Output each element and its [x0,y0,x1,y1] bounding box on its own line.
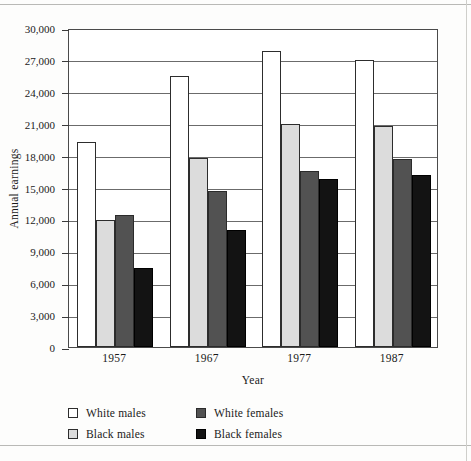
legend-swatch-white-females [196,408,206,418]
bar-black-females-1977[interactable] [319,179,338,347]
legend-swatch-black-males [68,429,78,439]
bar-black-females-1967[interactable] [227,230,246,347]
legend-label-black-males: Black males [86,428,145,440]
bar-white-males-1957[interactable] [77,142,96,347]
legend-swatch-white-males [68,408,78,418]
y-axis-tick-label: 24,000 [25,87,55,99]
bar-black-males-1957[interactable] [96,220,115,347]
bar-white-females-1977[interactable] [300,171,319,348]
bar-black-males-1977[interactable] [281,124,300,347]
bar-group-1957 [77,30,153,347]
legend-label-white-females: White females [214,407,283,419]
x-axis-tick-label-1967: 1967 [195,352,219,364]
y-axis-tick-label: 18,000 [25,151,55,163]
legend-item-black-males[interactable]: Black males [68,428,196,440]
x-axis-tick-labels: 1957196719771987 [68,352,438,372]
bar-white-males-1977[interactable] [262,51,281,347]
x-axis-tick-label-1957: 1957 [102,352,126,364]
y-axis-tick [62,189,69,190]
legend-item-white-females[interactable]: White females [196,407,356,419]
y-axis-tick [62,221,69,222]
y-axis-tick [62,157,69,158]
bar-black-males-1987[interactable] [374,126,393,347]
legend-label-black-females: Black females [214,428,282,440]
y-axis-tick-label: 30,000 [25,23,55,35]
y-axis-tick-label: 9,000 [30,246,55,258]
y-axis-tick [62,61,69,62]
y-axis-tick-label: 21,000 [25,119,55,131]
legend-swatch-black-females [196,429,206,439]
y-axis-tick [62,125,69,126]
bar-white-males-1967[interactable] [170,76,189,347]
bar-black-males-1967[interactable] [189,158,208,347]
legend-item-black-females[interactable]: Black females [196,428,356,440]
bar-white-females-1967[interactable] [208,191,227,347]
y-axis-tick-label: 3,000 [30,310,55,322]
legend-label-white-males: White males [86,407,146,419]
chart-legend: White malesWhite femalesBlack malesBlack… [68,402,368,444]
bar-white-females-1957[interactable] [115,215,134,347]
y-axis-tick [62,93,69,94]
bar-group-1977 [262,30,338,347]
x-axis-title: Year [68,374,438,386]
plot-area [68,29,438,348]
bar-white-females-1987[interactable] [393,159,412,347]
legend-item-white-males[interactable]: White males [68,407,196,419]
x-axis-tick-label-1987: 1987 [380,352,404,364]
x-axis-tick-label-1977: 1977 [287,352,311,364]
y-axis-tick-labels: 03,0006,0009,00012,00015,00018,00021,000… [0,29,63,348]
y-axis-tick [62,253,69,254]
bar-chart: Annual earnings 03,0006,0009,00012,00015… [0,0,471,461]
bar-group-1987 [355,30,431,347]
y-axis-tick-label: 12,000 [25,214,55,226]
y-axis-tick-label: 27,000 [25,55,55,67]
y-axis-tick-label: 0 [50,342,56,354]
bar-group-1967 [170,30,246,347]
bar-black-females-1957[interactable] [134,268,153,347]
y-axis-tick [62,349,69,350]
y-axis-tick-label: 15,000 [25,183,55,195]
y-axis-tick-label: 6,000 [30,278,55,290]
y-axis-tick [62,30,69,31]
bar-white-males-1987[interactable] [355,60,374,347]
bar-black-females-1987[interactable] [412,175,431,347]
y-axis-tick [62,285,69,286]
y-axis-tick [62,317,69,318]
